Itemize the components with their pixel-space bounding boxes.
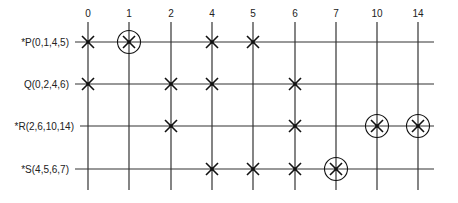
column-label-0: 0 — [85, 8, 91, 19]
row-label-1: Q(0,2,4,6) — [24, 79, 69, 90]
column-label-10: 10 — [371, 8, 382, 19]
row-label-0: *P(0,1,4,5) — [21, 37, 69, 48]
column-label-6: 6 — [292, 8, 298, 19]
column-label-7: 7 — [333, 8, 339, 19]
column-lines — [88, 22, 418, 190]
row-label-3: *S(4,5,6,7) — [21, 164, 69, 175]
column-label-14: 14 — [412, 8, 423, 19]
row-label-2: *R(2,6,10,14) — [15, 121, 74, 132]
column-label-1: 1 — [126, 8, 132, 19]
column-label-2: 2 — [168, 8, 174, 19]
column-label-5: 5 — [250, 8, 256, 19]
column-label-4: 4 — [209, 8, 215, 19]
